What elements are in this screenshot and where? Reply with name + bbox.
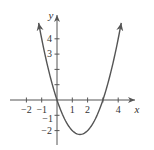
parabola-chart: −2 −1 1 2 4 4 3 −1 −2 x y [0, 0, 154, 150]
y-axis-label: y [48, 9, 54, 21]
x-tick-label-neg2: −2 [21, 104, 32, 115]
y-tick-label-3: 3 [47, 48, 52, 59]
x-tick-label-1: 1 [70, 104, 75, 115]
chart-svg: −2 −1 1 2 4 4 3 −1 −2 x y [0, 0, 154, 150]
x-axis-label: x [134, 103, 140, 115]
y-tick-label-neg2: −2 [41, 125, 52, 136]
x-tick-label-2: 2 [85, 104, 90, 115]
y-tick-label-neg1: −1 [42, 113, 53, 124]
x-tick-label-4: 4 [116, 104, 121, 115]
y-tick-label-4: 4 [47, 33, 52, 44]
